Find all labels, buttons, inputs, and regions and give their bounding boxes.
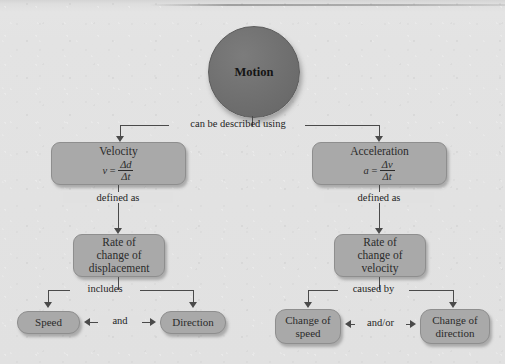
motion-concept-map: Motion can be described using Velocity v…	[0, 0, 505, 364]
edge-label-acceleration-defined-as: defined as	[324, 192, 434, 203]
connector-includes-bar-left	[48, 290, 70, 291]
node-motion[interactable]: Motion	[208, 26, 300, 118]
node-velocity-formula: v = Δd Δt	[102, 159, 134, 182]
connector-includes-bar-right	[140, 290, 193, 291]
arrowhead-to-speed	[44, 302, 52, 308]
node-velocity[interactable]: Velocity v = Δd Δt	[51, 142, 186, 185]
node-velocity-title: Velocity	[99, 145, 137, 158]
node-rate-of-change-of-displacement[interactable]: Rate of change of displacement	[73, 234, 165, 277]
rate-displacement-line1: Rate of	[102, 236, 136, 249]
acceleration-formula-lhs: a	[363, 165, 368, 177]
connector-branch-bar-left	[120, 125, 169, 126]
arrowhead-to-change-of-direction	[449, 302, 457, 308]
node-motion-label: Motion	[235, 65, 274, 80]
node-acceleration-formula: a = Δv Δt	[363, 159, 395, 182]
node-speed-label: Speed	[35, 316, 62, 328]
change-of-speed-line2: speed	[295, 327, 320, 339]
node-change-of-direction[interactable]: Change of direction	[420, 309, 490, 344]
connector-caused-by-bar-left	[308, 290, 338, 291]
velocity-formula-lhs: v	[102, 165, 107, 177]
rate-velocity-line1: Rate of	[363, 236, 397, 249]
connector-branch-bar-right	[305, 125, 379, 126]
edge-label-velocity-defined-as: defined as	[63, 192, 173, 203]
rate-displacement-line3: displacement	[89, 262, 150, 275]
change-of-speed-line1: Change of	[285, 314, 331, 326]
acceleration-formula-fraction: Δv Δt	[379, 159, 396, 182]
edge-label-caused-by: caused by	[338, 283, 409, 294]
rate-displacement-line2: change of	[96, 249, 141, 262]
velocity-formula-fraction: Δd Δt	[117, 159, 134, 182]
arrowhead-andor-to-change-of-speed	[345, 320, 351, 328]
acceleration-formula-numerator: Δv	[379, 159, 396, 170]
connector-caused-by-bar-right	[409, 290, 453, 291]
acceleration-formula-equals: =	[371, 165, 378, 177]
node-acceleration-title: Acceleration	[350, 145, 409, 158]
arrowhead-to-change-of-speed	[304, 302, 312, 308]
arrowhead-and-to-speed	[84, 318, 90, 326]
change-of-direction-line2: direction	[435, 327, 474, 339]
node-direction[interactable]: Direction	[160, 311, 226, 334]
arrowhead-andor-to-change-of-direction	[410, 320, 416, 328]
rate-velocity-line2: change of	[357, 249, 402, 262]
velocity-formula-equals: =	[109, 165, 116, 177]
acceleration-formula-denominator: Δt	[380, 170, 395, 182]
node-acceleration[interactable]: Acceleration a = Δv Δt	[312, 142, 447, 185]
rate-velocity-line3: velocity	[361, 262, 398, 275]
velocity-formula-numerator: Δd	[117, 159, 134, 170]
node-change-of-speed[interactable]: Change of speed	[275, 309, 341, 344]
arrowhead-and-to-direction	[150, 318, 156, 326]
edge-label-includes: includes	[70, 283, 140, 294]
edge-label-can-be-described-using: can be described using	[170, 118, 306, 129]
velocity-formula-denominator: Δt	[118, 170, 133, 182]
edge-label-and: and	[98, 315, 142, 326]
node-speed[interactable]: Speed	[17, 311, 80, 334]
edge-label-and-or: and/or	[355, 317, 406, 328]
top-divider-rule	[150, 4, 505, 6]
arrowhead-to-direction	[189, 302, 197, 308]
node-rate-of-change-of-velocity[interactable]: Rate of change of velocity	[334, 234, 426, 277]
node-direction-label: Direction	[172, 316, 214, 328]
change-of-direction-line1: Change of	[432, 314, 478, 326]
